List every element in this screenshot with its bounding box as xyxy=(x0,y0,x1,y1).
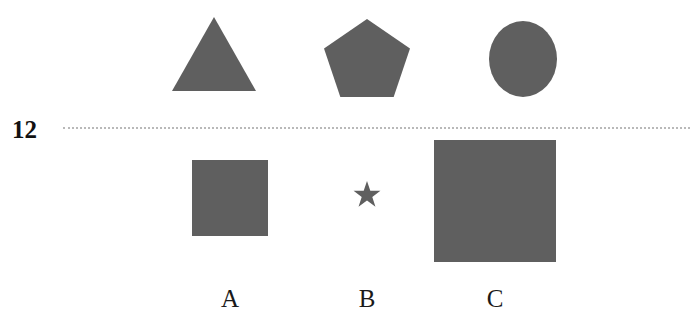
figure-canvas: 12 A B C xyxy=(0,0,693,326)
category-label-c: C xyxy=(465,286,525,311)
pentagon-shape xyxy=(324,19,410,97)
circle-shape xyxy=(489,21,557,97)
category-label-b: B xyxy=(337,286,397,311)
small-square-shape xyxy=(192,160,268,236)
large-square-shape xyxy=(434,140,556,262)
divider-label: 12 xyxy=(12,117,37,142)
star-shape xyxy=(353,181,381,208)
category-label-a: A xyxy=(200,286,260,311)
divider-dotted-line xyxy=(63,127,690,129)
triangle-shape xyxy=(172,17,256,91)
